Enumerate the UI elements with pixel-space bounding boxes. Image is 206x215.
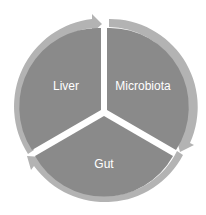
label-microbiota: Microbiota — [115, 79, 171, 93]
cycle-diagram: Liver Microbiota Gut — [0, 0, 206, 215]
label-gut: Gut — [94, 157, 114, 171]
label-liver: Liver — [53, 79, 79, 93]
